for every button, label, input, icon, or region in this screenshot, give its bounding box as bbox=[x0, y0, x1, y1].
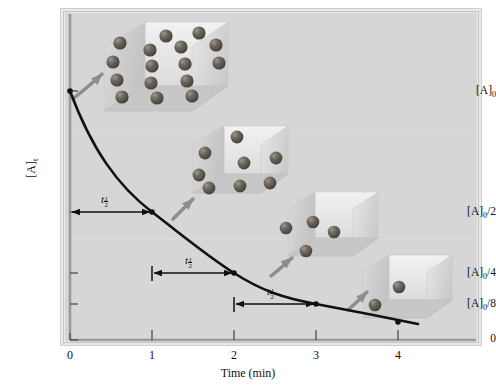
y-axis-title-base: [A] bbox=[24, 161, 38, 178]
cube-16-particles bbox=[104, 22, 228, 111]
y-tick-a0-8-frac: /8 bbox=[487, 297, 496, 309]
y-tick-a0-text: [A] bbox=[476, 84, 492, 96]
connector-arrow-2 bbox=[173, 199, 193, 219]
figure-root: [A]t [A]0 [A]0/2 [A]0/4 [A]0/8 0 0 1 2 3… bbox=[0, 0, 496, 390]
half-life-arrow-2 bbox=[152, 266, 232, 281]
y-axis-title: [A]t bbox=[24, 138, 40, 198]
cube-4-particles bbox=[280, 192, 378, 257]
x-axis-title: Time (min) bbox=[0, 366, 496, 381]
cube-8-particles bbox=[193, 126, 288, 194]
half-life-label-1-den: 2 bbox=[104, 202, 108, 207]
x-tick-label-0: 0 bbox=[55, 348, 85, 363]
half-life-label-1: t 1 2 bbox=[101, 193, 108, 207]
x-tick-label-2: 2 bbox=[219, 348, 249, 363]
y-tick-label-zero: 0 bbox=[440, 332, 496, 344]
x-tick-label-3: 3 bbox=[301, 348, 331, 363]
x-tick-label-4: 4 bbox=[383, 348, 413, 363]
y-tick-a0-4-frac: /4 bbox=[487, 266, 496, 278]
half-life-label-3: t 1 2 bbox=[267, 285, 274, 299]
cube-2-particles bbox=[363, 255, 452, 318]
y-tick-a0-2-frac: /2 bbox=[487, 205, 496, 217]
y-tick-a0-sub: 0 bbox=[492, 90, 496, 99]
y-tick-a0-4-text: [A] bbox=[467, 266, 483, 278]
y-tick-label-a0: [A]0 bbox=[440, 84, 496, 99]
y-tick-label-a0-over-4: [A]0/4 bbox=[440, 266, 496, 281]
half-life-label-2-den: 2 bbox=[188, 263, 192, 268]
connector-arrow-1 bbox=[74, 74, 102, 98]
x-axis-ticks bbox=[70, 330, 398, 340]
y-axis-title-sub: t bbox=[31, 159, 40, 161]
half-life-label-3-den: 2 bbox=[270, 294, 274, 299]
chart-svg bbox=[0, 0, 496, 390]
y-tick-label-a0-over-2: [A]0/2 bbox=[440, 205, 496, 220]
half-life-label-2: t 1 2 bbox=[185, 254, 192, 268]
y-tick-a0-8-text: [A] bbox=[467, 297, 483, 309]
y-tick-a0-2-text: [A] bbox=[467, 205, 483, 217]
y-tick-label-a0-over-8: [A]0/8 bbox=[440, 297, 496, 312]
connector-arrow-3 bbox=[271, 258, 292, 276]
half-life-arrow-3 bbox=[234, 297, 314, 312]
x-tick-label-1: 1 bbox=[137, 348, 167, 363]
